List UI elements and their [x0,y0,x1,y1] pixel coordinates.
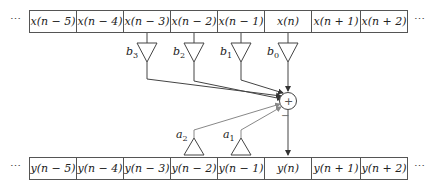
gain-b3-triangle [137,43,157,62]
input-cell: x(n − 4) [76,10,124,33]
output-cell: y(n − 4) [76,157,124,180]
gain-label-a1: a1 [223,128,235,143]
gain-b0-triangle [278,43,298,62]
gain-b1-triangle [231,43,251,62]
input-cell-current: x(n) [264,10,312,33]
gain-label-b2: b2 [173,45,185,60]
gain-b2-triangle [184,43,204,62]
output-cell: y(n − 5) [29,157,77,180]
input-cell: x(n − 3) [123,10,171,33]
gain-label-a2: a2 [176,128,188,143]
input-cell: x(n − 1) [217,10,265,33]
input-ellipsis-right: ⋯ [414,13,425,26]
input-cell: x(n + 1) [311,10,361,33]
input-cell: x(n + 2) [360,10,408,33]
output-ellipsis-left: ⋯ [10,160,21,173]
plus-sign: + [284,95,293,108]
output-cell: y(n − 2) [170,157,218,180]
output-cell: y(n + 2) [360,157,408,180]
input-cell: x(n − 5) [29,10,77,33]
output-ellipsis-right: ⋯ [414,160,425,173]
output-cell: y(n − 3) [123,157,171,180]
minus-sign: − [281,110,289,121]
output-cell: y(n + 1) [311,157,361,180]
input-cell: x(n − 2) [170,10,218,33]
input-ellipsis-left: ⋯ [10,13,21,26]
output-cell-current: y(n) [264,157,312,180]
gain-label-b0: b0 [267,45,279,60]
gain-label-b1: b1 [220,45,232,60]
output-cell: y(n − 1) [217,157,265,180]
gain-label-b3: b3 [126,45,138,60]
